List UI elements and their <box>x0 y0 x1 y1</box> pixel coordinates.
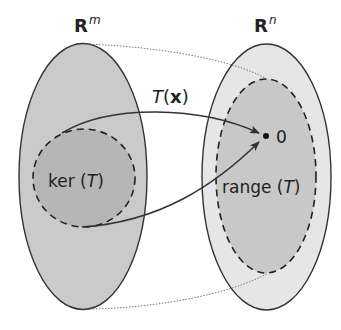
kernel-label-pre: ker ( <box>48 171 87 191</box>
mapping-label-close: ) <box>182 86 189 107</box>
domain-space-label-exp: m <box>89 13 101 27</box>
codomain-space-label-base: R <box>254 15 268 36</box>
range-label-post: ) <box>294 177 301 197</box>
range-region <box>216 79 316 273</box>
codomain-space-label: Rn <box>254 13 276 36</box>
zero-vector-point <box>263 133 269 139</box>
linear-transformation-diagram: 0 Rm Rn T(x) ker (T) range (T) <box>0 0 341 330</box>
mapping-label-open: ( <box>163 86 170 107</box>
codomain-space-label-exp: n <box>269 13 277 27</box>
domain-space-label: Rm <box>74 13 101 36</box>
mapping-label: T(x) <box>152 86 189 107</box>
zero-vector-label: 0 <box>276 127 287 147</box>
range-label: range (T) <box>222 177 301 197</box>
range-label-pre: range ( <box>222 177 283 197</box>
mapping-label-arg: x <box>170 86 182 107</box>
kernel-label: ker (T) <box>48 171 104 191</box>
domain-space-label-base: R <box>74 15 88 36</box>
kernel-label-post: ) <box>97 171 104 191</box>
